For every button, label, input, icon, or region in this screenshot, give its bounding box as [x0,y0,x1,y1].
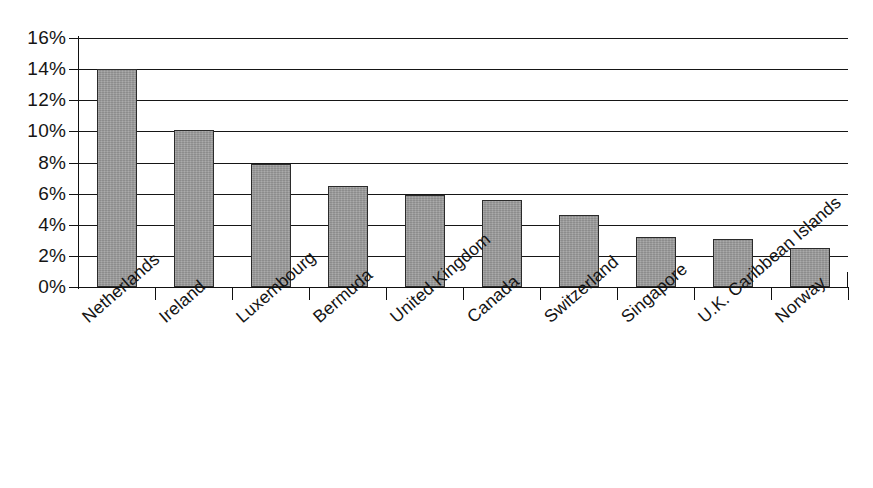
y-axis-tick-label: 10% [6,120,66,142]
y-axis-tick-label: 16% [6,27,66,49]
bar [97,69,137,287]
gridline [78,69,848,70]
x-axis-tick [232,287,233,300]
bar-chart: 0%2%4%6%8%10%12%14%16% NetherlandsIrelan… [0,0,873,488]
y-axis-tick [69,287,78,288]
y-axis-tick-label: 2% [6,245,66,267]
y-axis-tick-label: 0% [6,276,66,298]
bar [174,130,214,287]
x-axis-tick [694,287,695,300]
y-axis-tick [69,38,78,39]
y-axis-tick-label: 6% [6,183,66,205]
y-axis-tick-label: 12% [6,89,66,111]
x-axis-tick [155,287,156,300]
y-axis-tick [69,163,78,164]
x-axis-tick [309,287,310,300]
y-axis-tick [69,194,78,195]
x-axis-tick [617,287,618,300]
y-axis-tick-labels: 0%2%4%6%8%10%12%14%16% [0,0,66,488]
y-axis-tick-label: 8% [6,152,66,174]
y-axis-tick [69,256,78,257]
gridline [78,100,848,101]
x-axis-right-cap [847,272,848,288]
y-axis-tick [69,100,78,101]
x-axis-tick [771,287,772,300]
y-axis-tick-label: 14% [6,58,66,80]
x-axis-tick [848,287,849,300]
y-axis-tick-label: 4% [6,214,66,236]
y-axis-tick [69,225,78,226]
x-axis-tick [463,287,464,300]
x-axis-tick [386,287,387,300]
y-axis-tick [69,131,78,132]
y-axis-tick [69,69,78,70]
x-axis-tick [540,287,541,300]
gridline [78,38,848,39]
